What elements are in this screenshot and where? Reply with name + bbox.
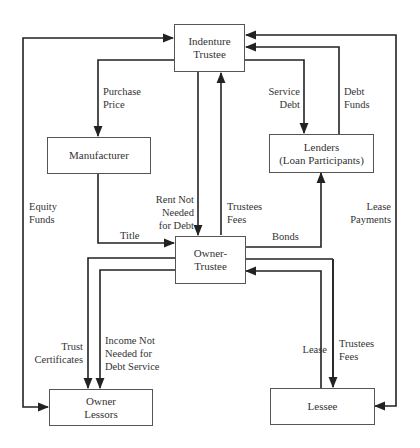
label-trust-certificates: TrustCertificates [30,340,83,366]
node-label: Trustee [194,260,227,273]
label-trustees-fees-bottom: TrusteesFees [339,337,374,363]
node-label: Lessors [84,408,118,421]
node-owner-lessors: OwnerLessors [49,389,153,426]
label-income-not-needed: Income NotNeeded forDebt Service [105,334,160,373]
node-lessee: Lessee [270,388,375,425]
node-label: Lenders [279,141,364,154]
label-title: Title [120,229,139,242]
label-lease: Lease [285,343,327,356]
node-label: Indenture [188,35,230,48]
node-indenture-trustee: IndentureTrustee [174,24,245,72]
node-label: Owner [84,395,118,408]
label-lease-payments: LeasePayments [330,200,391,226]
node-label: Trustee [188,48,230,61]
node-label: (Loan Participants) [279,154,364,167]
label-purchase-price: PurchasePrice [103,85,141,111]
node-label: Owner- [194,247,227,260]
node-label: Manufacturer [69,149,129,162]
label-service-debt: ServiceDebt [262,85,300,111]
node-owner-trustee: Owner-Trustee [175,236,246,284]
node-lenders: Lenders(Loan Participants) [269,134,374,173]
node-label: Lessee [308,400,338,413]
label-bonds: Bonds [272,230,299,243]
label-trustees-fees-top: TrusteesFees [227,200,262,226]
label-rent-not-needed: Rent NotNeededfor Debt [142,193,194,232]
label-debt-funds: DebtFunds [344,85,370,111]
edge-trustees-fees-bottom [246,271,321,388]
node-manufacturer: Manufacturer [47,137,151,174]
label-equity-funds: EquityFunds [29,200,57,226]
